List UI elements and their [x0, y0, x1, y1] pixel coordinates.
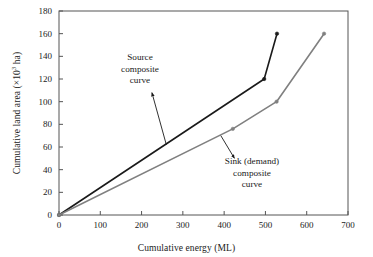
y-tick-label: 20: [28, 187, 52, 197]
sink-annotation-line-2: composite: [202, 168, 302, 180]
chart-figure: Cumulative energy (ML) Cumulative land a…: [0, 0, 373, 257]
y-tick-label: 180: [28, 6, 52, 16]
y-tick-label: 120: [28, 74, 52, 84]
x-tick-label: 100: [94, 220, 108, 230]
x-tick-label: 400: [217, 220, 231, 230]
sink-annotation-line-1: Sink (demand): [202, 156, 302, 168]
y-tick-label: 60: [28, 142, 52, 152]
y-axis-title-exponent: 3: [10, 67, 17, 70]
sink-curve-annotation: Sink (demand) composite curve: [202, 156, 302, 191]
x-tick-label: 700: [341, 220, 355, 230]
x-tick-label: 200: [135, 220, 149, 230]
source-annotation-line-3: curve: [104, 75, 176, 87]
source-annotation-line-2: composite: [104, 64, 176, 76]
x-tick-label: 600: [300, 220, 314, 230]
y-tick-label: 0: [28, 210, 52, 220]
x-tick-label: 500: [259, 220, 273, 230]
x-axis-title: Cumulative energy (ML): [0, 243, 373, 253]
y-axis-title: Cumulative land area (×103 ha): [12, 18, 22, 208]
y-tick-label: 40: [28, 165, 52, 175]
y-axis-title-prefix: Cumulative land area (×10: [12, 70, 22, 174]
source-annotation-line-1: Source: [104, 52, 176, 64]
x-tick-label: 0: [57, 220, 62, 230]
y-axis-title-suffix: ha): [12, 52, 22, 67]
x-tick-label: 300: [176, 220, 190, 230]
y-tick-label: 100: [28, 97, 52, 107]
y-tick-label: 140: [28, 51, 52, 61]
y-tick-label: 160: [28, 29, 52, 39]
sink-annotation-line-3: curve: [202, 179, 302, 191]
source-curve-annotation: Source composite curve: [104, 52, 176, 87]
y-tick-label: 80: [28, 119, 52, 129]
plot-area: [0, 0, 373, 257]
